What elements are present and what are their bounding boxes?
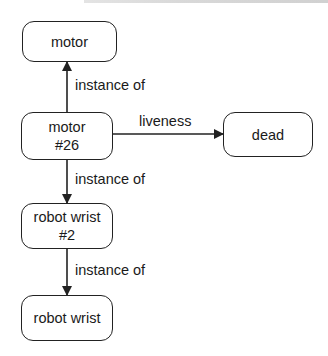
node-dead: dead <box>223 112 313 157</box>
edge-label-instance-of-2: instance of <box>75 171 145 187</box>
node-robot-wrist: robot wrist <box>21 295 113 341</box>
edge-label-instance-of-3: instance of <box>75 262 145 278</box>
node-dead-label: dead <box>252 126 284 144</box>
edge-label-liveness: liveness <box>139 113 191 129</box>
node-motor-label: motor <box>51 33 88 51</box>
edge-label-instance-of-1: instance of <box>75 77 145 93</box>
node-robot-wrist-label: robot wrist <box>34 309 101 327</box>
node-motor: motor <box>22 21 117 62</box>
node-robot-wrist-2-label: robot wrist #2 <box>34 208 101 244</box>
node-motor-26: motor #26 <box>21 112 113 160</box>
node-robot-wrist-2: robot wrist #2 <box>21 203 113 249</box>
node-motor-26-label: motor #26 <box>48 118 85 154</box>
